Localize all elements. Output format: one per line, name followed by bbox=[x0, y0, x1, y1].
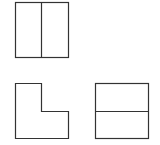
front-view-l-shape bbox=[16, 84, 69, 139]
top-view bbox=[16, 3, 69, 58]
side-view bbox=[96, 84, 149, 139]
three-view-diagram bbox=[0, 0, 160, 145]
front-view bbox=[16, 84, 69, 139]
